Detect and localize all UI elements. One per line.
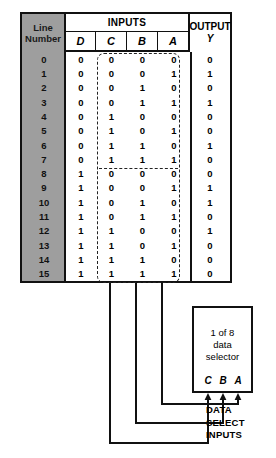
table-row: 810000 [22, 167, 230, 181]
cell-line-number: 11 [22, 209, 66, 223]
selector-line-3: selector [206, 351, 239, 363]
pin-label-b: B [219, 375, 226, 386]
cell-input-d: 1 [66, 224, 96, 238]
cell-input-b: 0 [127, 167, 158, 181]
table-row: 501010 [22, 124, 230, 138]
table-row: 000000 [22, 52, 230, 66]
cell-input-b: 1 [127, 252, 158, 266]
header-input-a: A [158, 32, 190, 52]
cell-input-c: 0 [96, 195, 127, 209]
cell-input-a: 1 [158, 66, 190, 80]
cell-input-a: 0 [158, 167, 190, 181]
data-select-inputs-line-3: INPUTS [206, 429, 245, 442]
cell-input-b: 0 [127, 238, 158, 252]
cell-input-c: 1 [96, 238, 127, 252]
cell-input-a: 1 [158, 152, 190, 166]
table-row: 1311010 [22, 238, 230, 252]
table-row: 1511110 [22, 267, 230, 281]
header-line-number-number: Number [25, 34, 61, 44]
pin-label-c: C [204, 375, 211, 386]
cell-line-number: 14 [22, 252, 66, 266]
cell-output-y: 0 [190, 124, 230, 138]
cell-output-y: 0 [190, 267, 230, 281]
table-row: 701110 [22, 152, 230, 166]
cell-output-y: 1 [190, 95, 230, 109]
selector-line-1: 1 of 8 [211, 327, 235, 339]
cell-input-b: 0 [127, 224, 158, 238]
table-row: 401000 [22, 109, 230, 123]
cell-input-b: 1 [127, 152, 158, 166]
cell-input-c: 1 [96, 152, 127, 166]
table-row: 1411100 [22, 252, 230, 266]
cell-line-number: 10 [22, 195, 66, 209]
header-output-variable: Y [207, 34, 214, 44]
cell-input-d: 0 [66, 81, 96, 95]
cell-line-number: 1 [22, 66, 66, 80]
cell-line-number: 9 [22, 181, 66, 195]
cell-input-b: 1 [127, 267, 158, 281]
cell-line-number: 8 [22, 167, 66, 181]
cell-input-b: 0 [127, 109, 158, 123]
wire-arrowheads [205, 393, 242, 400]
cell-input-a: 1 [158, 209, 190, 223]
cell-input-b: 1 [127, 195, 158, 209]
cell-output-y: 0 [190, 81, 230, 95]
table-row: 200100 [22, 81, 230, 95]
cell-line-number: 4 [22, 109, 66, 123]
cell-input-d: 1 [66, 267, 96, 281]
cell-input-c: 0 [96, 66, 127, 80]
cell-input-b: 1 [127, 95, 158, 109]
data-select-inputs-label: DATA SELECT INPUTS [206, 404, 245, 442]
selector-line-2: data [213, 339, 232, 351]
header-output-label: OUTPUT [189, 22, 230, 32]
cell-output-y: 1 [190, 181, 230, 195]
cell-input-d: 0 [66, 152, 96, 166]
cell-input-c: 1 [96, 109, 127, 123]
cell-output-y: 1 [190, 224, 230, 238]
header-inputs: INPUTS [66, 14, 190, 32]
header-input-b: B [127, 32, 158, 52]
cell-input-c: 0 [96, 209, 127, 223]
cell-line-number: 2 [22, 81, 66, 95]
cell-input-b: 1 [127, 138, 158, 152]
cell-output-y: 0 [190, 238, 230, 252]
cell-input-a: 1 [158, 181, 190, 195]
cell-input-a: 1 [158, 238, 190, 252]
cell-output-y: 0 [190, 109, 230, 123]
header-line-number: Line Number [22, 14, 66, 52]
cell-line-number: 7 [22, 152, 66, 166]
selector-pin-labels: C B A [192, 375, 253, 389]
table-row: 1010101 [22, 195, 230, 209]
cell-input-b: 0 [127, 66, 158, 80]
cell-input-b: 1 [127, 209, 158, 223]
cell-input-b: 1 [127, 81, 158, 95]
cell-output-y: 0 [190, 209, 230, 223]
cell-input-a: 0 [158, 52, 190, 66]
cell-input-c: 0 [96, 95, 127, 109]
cell-line-number: 3 [22, 95, 66, 109]
cell-line-number: 0 [22, 52, 66, 66]
cell-line-number: 12 [22, 224, 66, 238]
cell-output-y: 0 [190, 167, 230, 181]
cell-input-d: 1 [66, 167, 96, 181]
cell-input-c: 1 [96, 252, 127, 266]
cell-input-a: 0 [158, 224, 190, 238]
cell-input-a: 0 [158, 195, 190, 209]
cell-input-c: 0 [96, 167, 127, 181]
cell-input-d: 0 [66, 52, 96, 66]
cell-line-number: 13 [22, 238, 66, 252]
cell-input-d: 0 [66, 124, 96, 138]
cell-input-c: 1 [96, 224, 127, 238]
cell-input-d: 1 [66, 238, 96, 252]
cell-input-a: 0 [158, 252, 190, 266]
table-body: 0000001000112001003001114010005010106011… [22, 52, 230, 281]
cell-input-b: 0 [127, 52, 158, 66]
cell-line-number: 5 [22, 124, 66, 138]
cell-input-a: 0 [158, 138, 190, 152]
cell-input-d: 0 [66, 109, 96, 123]
cell-input-d: 1 [66, 209, 96, 223]
cell-input-c: 0 [96, 81, 127, 95]
cell-output-y: 1 [190, 138, 230, 152]
table-row: 1211001 [22, 224, 230, 238]
data-selector-diagram: 1 of 8 data selector C B A DATA SELECT I… [0, 283, 276, 458]
